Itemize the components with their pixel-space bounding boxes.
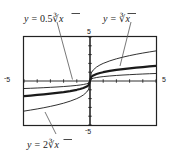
annotation-c-equals: = — [34, 139, 40, 150]
axis-label-right: 5 — [162, 76, 166, 83]
annotation-a-coefficient: 0.5 — [40, 13, 53, 24]
annotation-a-equals: = — [31, 13, 37, 24]
cube-root-graph-figure: 5 -5 5 -5 y=0.5∛x y=∛x — [0, 0, 171, 161]
annotation-a-argument: x — [58, 13, 64, 24]
annotation-b-equals: = — [110, 13, 116, 24]
axis-label-bottom-value: 5 — [87, 128, 91, 135]
annotation-a-lhs: y — [23, 13, 29, 24]
axis-label-top: 5 — [87, 28, 91, 35]
annotation-c-argument: x — [53, 139, 59, 150]
graph-svg: 5 -5 5 -5 y=0.5∛x y=∛x — [0, 0, 171, 161]
annotation-c-lhs: y — [26, 139, 32, 150]
axis-label-left-value: 5 — [6, 76, 10, 83]
annotation-b-argument: x — [124, 13, 130, 24]
figure-background — [0, 0, 171, 161]
annotation-b-lhs: y — [102, 13, 108, 24]
svg-text:y=2∛x: y=2∛x — [26, 138, 59, 150]
